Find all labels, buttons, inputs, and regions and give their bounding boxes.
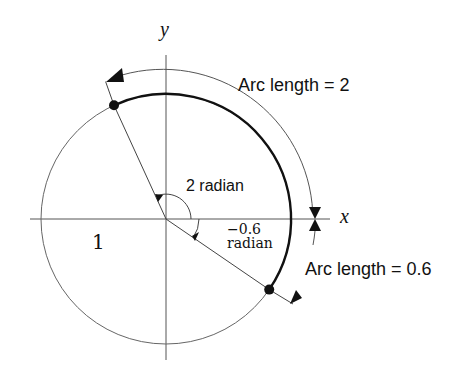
point-neg06rad — [264, 285, 274, 295]
x-axis-label: x — [339, 205, 349, 227]
angle-label-2rad: 2 radian — [186, 177, 244, 194]
angle-arc-2rad — [156, 194, 191, 219]
radius-label: 1 — [92, 230, 105, 254]
angle-unit-neg06: radian — [227, 235, 273, 251]
arrowhead-arc2-xaxis — [309, 207, 321, 219]
radius-2rad — [114, 105, 166, 219]
arrowhead-arc2-end — [106, 68, 124, 82]
arrowhead-arc06-xaxis — [309, 219, 321, 231]
point-2rad — [109, 100, 119, 110]
y-axis-label: y — [158, 18, 169, 41]
arc-length-2-label: Arc length = 2 — [238, 75, 350, 95]
arc-length-06-label: Arc length = 0.6 — [305, 259, 432, 279]
outer-arc-06 — [313, 231, 315, 245]
unit-circle-diagram: y x 1 2 radian −0.6 radian Arc length = … — [0, 0, 470, 372]
arrowhead-arc06-end — [290, 290, 302, 304]
